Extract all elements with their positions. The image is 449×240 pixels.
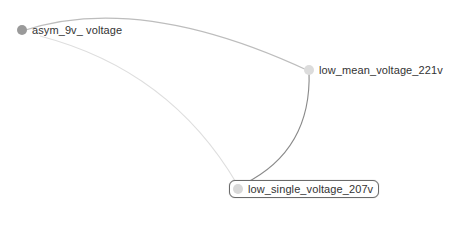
node-circle-icon — [233, 184, 243, 194]
node-asym-9v-voltage[interactable]: asym_9v_ voltage — [17, 24, 122, 36]
edge-asym-to-low-single[interactable] — [40, 36, 237, 184]
edge-low-mean-to-low-single[interactable] — [244, 71, 309, 184]
node-circle-icon — [304, 65, 314, 75]
node-label: low_single_voltage_207v — [248, 183, 373, 195]
node-label: asym_9v_ voltage — [32, 24, 122, 36]
node-circle-icon — [17, 25, 27, 35]
node-label: low_mean_voltage_221v — [319, 64, 443, 76]
node-low-mean-voltage-221v[interactable]: low_mean_voltage_221v — [304, 64, 443, 76]
node-low-single-voltage-207v[interactable]: low_single_voltage_207v — [229, 180, 379, 198]
